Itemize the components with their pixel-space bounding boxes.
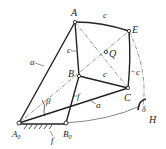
label-c-AE: c	[103, 10, 107, 20]
label-A: A	[70, 7, 78, 18]
arc-B0-H	[66, 106, 140, 123]
construction-lines	[19, 22, 144, 123]
joint-Q	[104, 50, 107, 53]
label-B0: B0	[63, 129, 72, 140]
link-c-AB	[75, 22, 79, 76]
label-beta: β	[45, 96, 51, 106]
link-c-AE	[75, 22, 129, 31]
joint-A	[73, 20, 76, 23]
label-A0: A0	[11, 129, 21, 140]
label-c-EC: c	[136, 67, 140, 77]
links	[19, 22, 130, 123]
label-E: E	[131, 24, 138, 35]
label-B: B	[68, 68, 74, 79]
label-a-upper: a	[30, 57, 35, 67]
label-delta: δ	[142, 105, 146, 114]
link-c-EC	[128, 31, 130, 88]
joint-E	[127, 29, 130, 32]
ground-hatch	[19, 124, 66, 129]
joint-B	[77, 74, 80, 77]
label-c-AB: c	[67, 45, 71, 55]
label-f-ground: f	[51, 135, 55, 145]
label-Q: Q	[109, 48, 117, 59]
joint-B0	[64, 121, 68, 125]
label-c-BC: c	[103, 69, 107, 79]
label-a-lower: a	[96, 100, 101, 110]
label-H: H	[148, 114, 157, 125]
label-f-BB0: f	[77, 91, 81, 101]
label-C: C	[124, 92, 131, 103]
linkage-diagram: A E Q B C A0 B0 a a c c c c f f β δ H	[0, 0, 166, 149]
joint-C	[126, 86, 129, 89]
joint-A0	[17, 121, 21, 125]
